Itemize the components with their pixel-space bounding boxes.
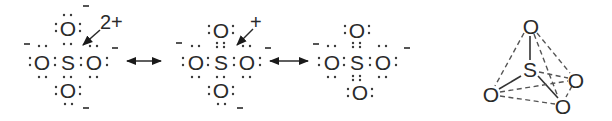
bond-s-o-right (539, 72, 568, 78)
oxygen-left: O (483, 83, 499, 106)
oxygen-bottom: O (352, 81, 368, 104)
oxygen-right: O (375, 51, 391, 74)
oxygen-top: O (523, 15, 539, 38)
edge-left-bottom (500, 96, 555, 104)
resonance-structure-1: O S O O O (24, 6, 123, 108)
tetrahedral-geometry: O S O O O (483, 15, 584, 118)
formal-charge-label: 2+ (100, 11, 123, 33)
bond-s-o-left (499, 76, 521, 89)
edge-top-left (495, 33, 524, 86)
sulfate-diagram: O S O O O (0, 0, 612, 121)
sulfur-center: S (214, 51, 228, 74)
oxygen-top: O (60, 17, 76, 40)
oxygen-top: O (349, 19, 365, 42)
oxygen-bottom: O (213, 79, 229, 102)
oxygen-bottom: O (60, 79, 76, 102)
sulfur-center: S (61, 51, 75, 74)
oxygen-left: O (34, 51, 50, 74)
oxygen-right: O (86, 51, 102, 74)
charge-pointer-arrow (83, 30, 100, 45)
oxygen-bottom: O (555, 95, 571, 118)
edge-top-bottom (534, 34, 558, 97)
oxygen-left: O (188, 51, 204, 74)
oxygen-right: O (239, 51, 255, 74)
charge-pointer-arrow (237, 29, 253, 45)
oxygen-right: O (568, 69, 584, 92)
sulfur-center: S (350, 51, 364, 74)
oxygen-top: O (213, 19, 229, 42)
resonance-structure-2: O S O O O (176, 11, 271, 108)
oxygen-left: O (324, 51, 340, 74)
sulfur-center: S (523, 58, 537, 81)
resonance-structure-3: O S O O O (313, 19, 410, 104)
